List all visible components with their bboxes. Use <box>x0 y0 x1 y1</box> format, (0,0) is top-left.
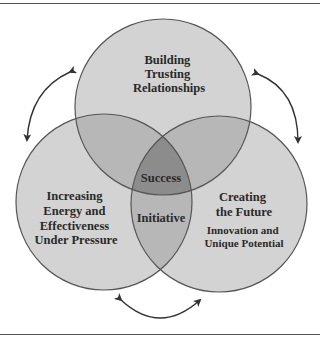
bottom-cycle-arrow <box>121 300 200 318</box>
center-label: Success <box>141 171 181 185</box>
venn-diagram: Building Trusting Relationships Success … <box>0 0 320 338</box>
right-circle-label: Creating the Future <box>216 190 273 219</box>
bottom-overlap-label: Initiative <box>137 211 186 225</box>
right-circle-sublabel: Innovation and Unique Potential <box>204 224 283 249</box>
